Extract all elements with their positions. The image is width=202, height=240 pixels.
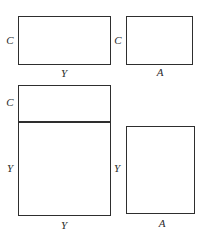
top-right-rectangle-bottom-label: A <box>155 67 165 78</box>
top-left-rectangle-bottom-label: Y <box>59 68 69 79</box>
cropped-header-text <box>0 0 202 8</box>
bottom-left-rectangle-bottom-label: Y <box>59 220 69 231</box>
figure-canvas: C Y C A C Y Y Y A <box>0 0 202 240</box>
top-right-rectangle-left-label: C <box>113 35 123 46</box>
bottom-right-rectangle-left-label: Y <box>112 163 122 174</box>
bottom-right-rectangle <box>126 126 195 214</box>
bottom-right-rectangle-bottom-label: A <box>157 218 167 229</box>
top-left-rectangle <box>18 16 111 65</box>
bottom-left-rectangle-divider <box>18 121 111 123</box>
top-right-rectangle <box>126 16 193 65</box>
bottom-left-split-rectangle <box>18 85 111 216</box>
bottom-left-rectangle-top-section-label: C <box>5 97 15 108</box>
bottom-left-rectangle-bottom-section-label: Y <box>5 163 15 174</box>
top-left-rectangle-left-label: C <box>5 35 15 46</box>
